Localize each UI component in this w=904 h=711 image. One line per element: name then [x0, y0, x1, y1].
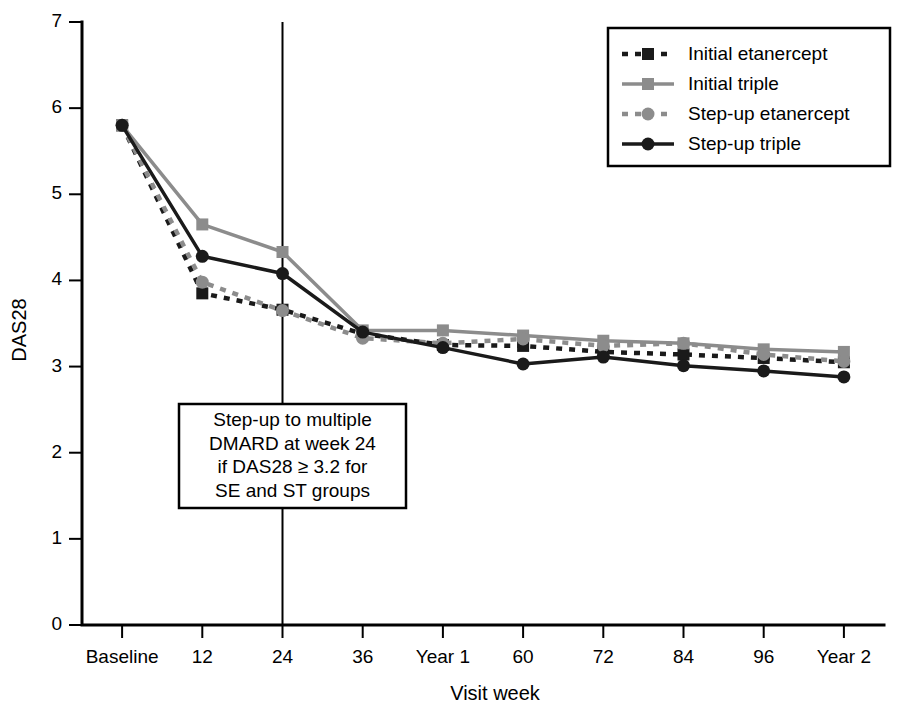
data-point: [116, 119, 129, 132]
data-point: [196, 250, 209, 263]
legend-swatch-marker: [642, 78, 654, 90]
data-point: [277, 246, 289, 258]
data-point: [196, 287, 208, 299]
x-tick-label: Baseline: [86, 646, 159, 667]
x-tick-label: 84: [673, 646, 695, 667]
legend-label: Step-up triple: [688, 133, 801, 154]
annotation-line: Step-up to multiple: [213, 409, 371, 430]
data-point: [597, 339, 610, 352]
legend-label: Initial etanercept: [688, 43, 828, 64]
data-point: [276, 267, 289, 280]
y-tick-label: 1: [51, 527, 62, 548]
data-point: [356, 326, 369, 339]
legend-swatch-marker: [642, 108, 655, 121]
legend-swatch-marker: [642, 138, 655, 151]
x-tick-label: Year 2: [817, 646, 871, 667]
x-tick-label: 36: [352, 646, 373, 667]
legend: Initial etanerceptInitial tripleStep-up …: [608, 28, 890, 166]
data-point: [517, 357, 530, 370]
x-axis-title: Visit week: [450, 682, 541, 704]
data-point: [837, 370, 850, 383]
data-point: [276, 304, 289, 317]
data-point: [837, 355, 850, 368]
data-point: [757, 348, 770, 361]
x-tick-label: Year 1: [416, 646, 470, 667]
y-axis-title: DAS28: [8, 298, 30, 361]
data-point: [597, 351, 610, 364]
x-axis-ticks: Baseline122436Year 160728496Year 2: [86, 625, 871, 667]
x-tick-label: 24: [272, 646, 294, 667]
annotation-line: DMARD at week 24: [209, 433, 376, 454]
legend-label: Step-up etanercept: [688, 103, 850, 124]
data-point: [757, 364, 770, 377]
y-axis-ticks: 01234567: [51, 10, 82, 634]
x-tick-label: 96: [753, 646, 774, 667]
x-tick-label: 60: [513, 646, 534, 667]
data-point: [196, 276, 209, 289]
data-point: [677, 359, 690, 372]
y-tick-label: 3: [51, 355, 62, 376]
x-tick-label: 72: [593, 646, 614, 667]
x-tick-label: 12: [192, 646, 213, 667]
chart-figure: 01234567 Baseline122436Year 160728496Yea…: [0, 0, 904, 711]
data-point: [436, 341, 449, 354]
y-tick-label: 0: [51, 613, 62, 634]
data-point: [517, 333, 530, 346]
das28-line-chart: 01234567 Baseline122436Year 160728496Yea…: [0, 0, 904, 711]
data-point: [437, 324, 449, 336]
data-point: [678, 349, 690, 361]
y-tick-label: 7: [51, 10, 62, 31]
annotation-line: if DAS28 ≥ 3.2 for: [218, 456, 369, 477]
annotation-line: SE and ST groups: [215, 480, 370, 501]
legend-label: Initial triple: [688, 73, 779, 94]
data-point: [196, 218, 208, 230]
y-tick-label: 2: [51, 441, 62, 462]
y-tick-label: 4: [51, 268, 62, 289]
legend-swatch-marker: [642, 48, 654, 60]
annotation-step-up-note: Step-up to multipleDMARD at week 24if DA…: [179, 404, 406, 508]
y-tick-label: 5: [51, 182, 62, 203]
data-point: [677, 337, 690, 350]
y-tick-label: 6: [51, 96, 62, 117]
